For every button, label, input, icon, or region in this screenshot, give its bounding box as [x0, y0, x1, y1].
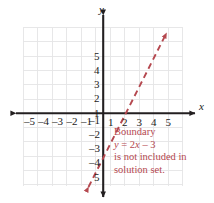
y-tick-label-pos3: 3 [94, 79, 100, 90]
x-tick-label-pos1: 1 [108, 117, 114, 128]
annotation-eq-rest: – 3 [140, 139, 156, 150]
y-tick-label-neg1: –1 [89, 115, 100, 126]
boundary-annotation: Boundary y = 2x – 3 is not included in s… [114, 126, 212, 176]
x-tick-label-neg3: –3 [52, 116, 63, 127]
annotation-line-3: is not included in [114, 151, 212, 164]
x-tick-label-neg4: –4 [38, 116, 49, 127]
graph-figure: y x –5 –4 –3 –2 –1 1 2 3 4 5 5 4 3 2 1 –… [0, 0, 214, 203]
y-tick-label-neg4: –4 [89, 157, 100, 168]
y-tick-label-neg5: 5 [94, 172, 100, 183]
annotation-eq-equals: = 2 [119, 139, 135, 150]
x-tick-label-neg2: –2 [67, 116, 78, 127]
annotation-line-1: Boundary [114, 126, 212, 139]
y-tick-label-pos5: 5 [94, 51, 100, 62]
y-tick-label-neg3: –3 [89, 143, 100, 154]
y-tick-label-pos2: 2 [94, 93, 100, 104]
y-axis-label: y [99, 4, 104, 15]
x-axis-label: x [199, 101, 204, 112]
y-tick-label-pos4: 4 [94, 65, 100, 76]
annotation-line-4: solution set. [114, 164, 212, 177]
annotation-line-2: y = 2x – 3 [114, 139, 212, 152]
x-tick-label-neg5: –5 [24, 116, 35, 127]
y-tick-label-neg2: –2 [89, 129, 100, 140]
